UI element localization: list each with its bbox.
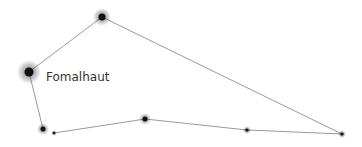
constellation-diagram: Fomalhaut [0, 0, 362, 147]
star-s5 [143, 117, 148, 122]
star-label-fomalhaut: Fomalhaut [46, 70, 109, 84]
star-fomalhaut [25, 68, 34, 77]
star-s6 [245, 128, 248, 131]
constellation-line [54, 119, 145, 133]
star-s3 [41, 127, 46, 132]
star-s7 [340, 132, 343, 135]
constellation-line [102, 17, 342, 134]
constellation-line [145, 119, 247, 130]
constellation-line [247, 130, 342, 134]
star-s4 [53, 132, 56, 135]
star-s1 [99, 14, 106, 21]
constellation-line [29, 17, 102, 72]
